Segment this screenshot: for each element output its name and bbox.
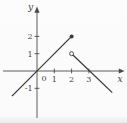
x-tick-label-2: 2 <box>69 75 74 84</box>
x-axis-label: x <box>117 74 122 84</box>
y-tick-label-2: 1 <box>27 50 32 59</box>
right-segment-open-endpoint-icon <box>70 52 74 56</box>
left-segment-line <box>12 36 72 96</box>
x-tick-label-3: 3 <box>86 75 91 84</box>
origin-label: 0 <box>42 74 47 83</box>
y-axis-arrowhead-icon <box>34 6 39 12</box>
y-tick-label-3: -1 <box>25 84 33 93</box>
left-segment-closed-endpoint-icon <box>70 34 74 38</box>
function-graph-figure: 12321-10xy <box>0 0 127 123</box>
plot-svg: 12321-10xy <box>0 0 127 123</box>
right-segment-line <box>72 54 113 93</box>
y-tick-label-1: 2 <box>27 32 32 41</box>
y-axis-label: y <box>27 2 34 12</box>
x-tick-label-1: 1 <box>52 75 57 84</box>
